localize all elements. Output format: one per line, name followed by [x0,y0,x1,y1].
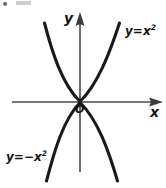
curve-label-pos-base: y=x [125,24,151,38]
y-axis-label: y [64,11,73,25]
y-axis-arrowhead [76,12,85,26]
curve-label-pos-exponent: 2 [151,23,156,32]
curve-label-y-equals-negative-x-squared: y=−x2 [6,150,47,163]
curve-label-neg-base: y=−x [6,150,42,164]
curve-label-y-equals-x-squared: y=x2 [125,24,156,37]
curve-y-equals-x-squared [45,23,120,102]
curve-label-neg-exponent: 2 [42,149,47,158]
x-axis-label: x [150,105,159,119]
parabola-figure: y x O y=x2 y=−x2 [0,0,166,188]
origin-label: O [75,104,84,115]
